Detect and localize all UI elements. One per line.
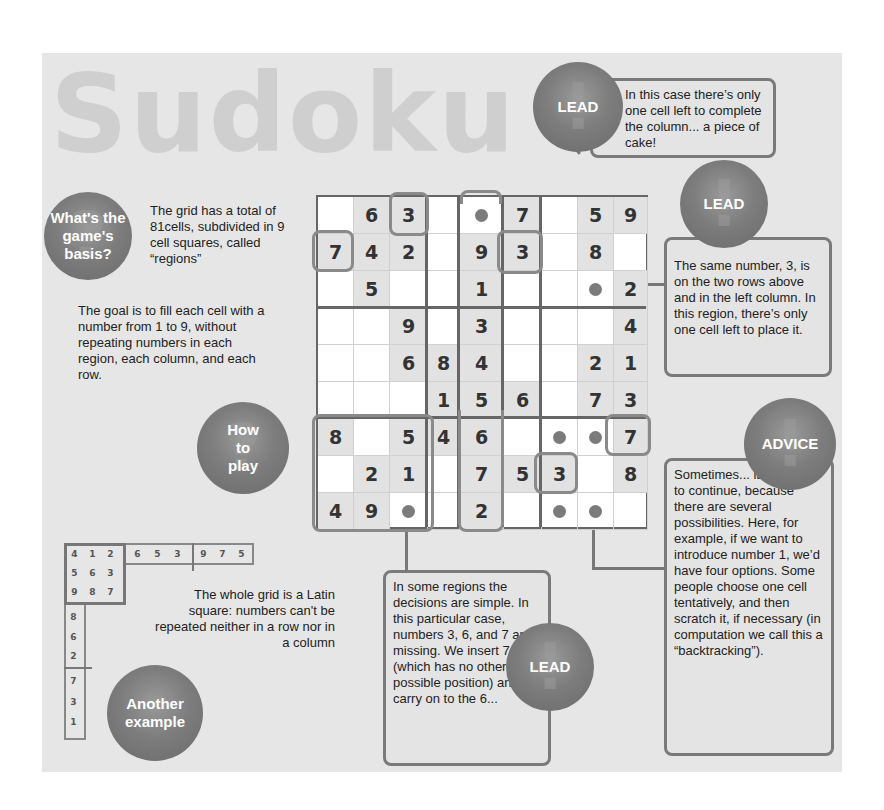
latin-cell: 9 xyxy=(67,583,82,600)
latin-cell: 6 xyxy=(130,545,145,562)
grid-cell xyxy=(542,234,578,271)
latin-text: The whole grid is a Latin square: number… xyxy=(150,587,335,651)
grid-cell xyxy=(504,419,542,456)
lead-top-bubble: ! LEAD xyxy=(533,62,623,152)
grid-cell xyxy=(542,419,578,456)
advice-callout: Sometimes... it’s harder to continue, be… xyxy=(664,458,834,756)
latin-cell: 6 xyxy=(85,564,100,581)
grid-cell xyxy=(578,271,614,308)
latin-cell: 7 xyxy=(66,672,81,689)
another-example-bubble: Another example xyxy=(107,665,203,761)
grid-cell: 8 xyxy=(578,234,614,271)
highlight-column xyxy=(458,410,504,532)
grid-cell: 9 xyxy=(390,308,428,345)
grid-cell: 2 xyxy=(390,234,428,271)
grid-cell: 6 xyxy=(390,345,428,382)
goal-text: The goal is to fill each cell with a num… xyxy=(78,303,268,383)
latin-cell: 1 xyxy=(66,713,81,730)
grid-cell: 1 xyxy=(428,382,460,419)
latin-cell: 7 xyxy=(215,545,230,562)
latin-cell: 4 xyxy=(67,545,82,562)
latin-cell: 6 xyxy=(66,628,81,645)
grid-cell xyxy=(578,308,614,345)
latin-cell: 5 xyxy=(150,545,165,562)
advice-bubble: ! ADVICE xyxy=(744,398,836,490)
grid-cell xyxy=(318,345,354,382)
lead-right-callout: The same number, 3, is on the two rows a… xyxy=(664,237,832,377)
grid-cell: 7 xyxy=(578,382,614,419)
latin-cell: 5 xyxy=(67,564,82,581)
grid-cell: 9 xyxy=(614,197,648,234)
grid-cell xyxy=(428,197,460,234)
latin-cell: 1 xyxy=(85,545,100,562)
highlight-cell xyxy=(605,414,651,456)
basis-bubble-label: What's the game's basis? xyxy=(50,209,126,263)
grid-cell xyxy=(542,493,578,530)
highlight-cell xyxy=(312,230,354,272)
latin-cell: 9 xyxy=(196,545,211,562)
grid-cell xyxy=(614,493,648,530)
grid-cell xyxy=(542,382,578,419)
grid-cell xyxy=(354,345,390,382)
grid-cell xyxy=(318,271,354,308)
grid-cell xyxy=(504,308,542,345)
grid-cell xyxy=(504,271,542,308)
lead-bottom-bubble: ! LEAD xyxy=(506,623,594,711)
grid-cell xyxy=(578,493,614,530)
latin-cell: 8 xyxy=(66,608,81,625)
grid-cell xyxy=(542,197,578,234)
latin-cell: 3 xyxy=(66,693,81,710)
grid-cell: 8 xyxy=(614,456,648,493)
grid-cell: 6 xyxy=(504,382,542,419)
grid-cell xyxy=(428,271,460,308)
highlight-cell xyxy=(389,192,429,236)
grid-cell: 2 xyxy=(578,345,614,382)
marker-dot-icon xyxy=(589,431,602,444)
basis-bubble: ? What's the game's basis? xyxy=(44,192,132,280)
marker-dot-icon xyxy=(589,283,602,296)
how-to-play-bubble: ? How to play xyxy=(197,402,289,494)
grid-cell xyxy=(578,456,614,493)
marker-dot-icon xyxy=(553,431,566,444)
region-divider xyxy=(318,306,646,309)
latin-cell: 3 xyxy=(103,564,118,581)
grid-cell xyxy=(614,234,648,271)
grid-cell xyxy=(542,345,578,382)
page-title: Sudoku xyxy=(50,60,517,168)
latin-cell: 8 xyxy=(85,583,100,600)
lead-bottom-label: LEAD xyxy=(530,658,571,676)
grid-cell: 1 xyxy=(614,345,648,382)
grid-cell: 4 xyxy=(614,308,648,345)
how-to-play-label: How to play xyxy=(223,421,263,475)
advice-label: ADVICE xyxy=(762,435,819,453)
marker-dot-icon xyxy=(589,505,602,518)
marker-dot-icon xyxy=(475,209,488,222)
highlight-cell xyxy=(534,452,578,494)
grid-cell: 6 xyxy=(354,197,390,234)
grid-cell xyxy=(504,493,542,530)
another-example-label: Another example xyxy=(115,695,195,731)
grid-cell xyxy=(318,308,354,345)
grid-cell: 1 xyxy=(460,271,504,308)
highlight-cell xyxy=(460,190,502,204)
grid-cell xyxy=(354,308,390,345)
grid-cell: 4 xyxy=(354,234,390,271)
lead-top-label: LEAD xyxy=(558,98,599,116)
grid-cell xyxy=(390,271,428,308)
marker-dot-icon xyxy=(553,505,566,518)
basis-text: The grid has a total of 81cells, subdivi… xyxy=(150,203,300,267)
grid-cell: 7 xyxy=(504,197,542,234)
grid-cell xyxy=(542,308,578,345)
grid-cell: 5 xyxy=(578,197,614,234)
grid-cell: 3 xyxy=(460,308,504,345)
connector-line xyxy=(592,567,670,570)
highlight-cell xyxy=(497,230,543,274)
latin-cell: 2 xyxy=(103,545,118,562)
latin-cell: 7 xyxy=(103,583,118,600)
grid-cell xyxy=(542,271,578,308)
latin-cell: 2 xyxy=(66,647,81,664)
lead-right-label: LEAD xyxy=(704,195,745,213)
latin-cell: 3 xyxy=(170,545,185,562)
grid-cell xyxy=(504,345,542,382)
grid-cell xyxy=(318,197,354,234)
